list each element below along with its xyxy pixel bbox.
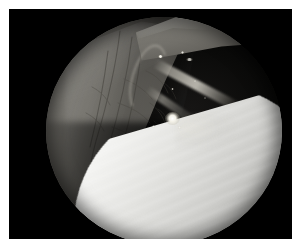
debris-haze (176, 113, 237, 149)
endoscope-black-frame (9, 9, 292, 239)
circular-field-of-view (46, 17, 282, 239)
mid-glint-e (194, 80, 196, 82)
arthroscopy-image-viewer: Arthroscopic view of a joint: bright whi… (0, 0, 301, 247)
primary-light-reflection (165, 112, 180, 126)
right-glint-h (204, 97, 206, 99)
lower-glint-g (178, 126, 181, 128)
mid-glint-d (171, 88, 174, 91)
lower-glint-f (152, 125, 155, 127)
